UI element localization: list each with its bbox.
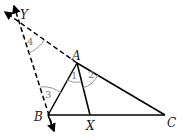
dashed-line-ay (5, 12, 77, 63)
point-label-c: C (167, 116, 176, 130)
dashed-arrow-bottom (48, 115, 54, 131)
geometry-diagram: 1 2 3 4 Y A B X C (0, 0, 187, 140)
point-label-y: Y (20, 8, 29, 22)
angle-label-1: 1 (71, 70, 77, 81)
point-label-b: B (33, 110, 43, 124)
angle-label-2: 2 (88, 69, 94, 80)
point-label-x: X (85, 119, 95, 133)
angle-label-3: 3 (45, 89, 51, 100)
angle-label-4: 4 (27, 36, 33, 47)
point-label-a: A (71, 49, 81, 63)
